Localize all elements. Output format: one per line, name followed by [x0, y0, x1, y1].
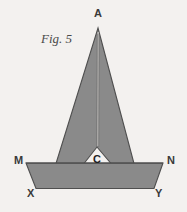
- vertex-label-n: N: [167, 155, 175, 166]
- vertex-label-y: Y: [155, 188, 163, 199]
- figure-caption: Fig. 5: [41, 32, 72, 45]
- vertex-label-a: A: [94, 8, 102, 19]
- sailboat-diagram: [0, 0, 187, 212]
- vertex-label-m: M: [14, 155, 23, 166]
- vertex-label-c: C: [93, 154, 101, 165]
- hull-shape: [26, 163, 163, 189]
- sail-shape: [56, 28, 134, 164]
- figure-canvas: A M N C X Y Fig. 5: [0, 0, 187, 212]
- vertex-label-x: X: [27, 188, 35, 199]
